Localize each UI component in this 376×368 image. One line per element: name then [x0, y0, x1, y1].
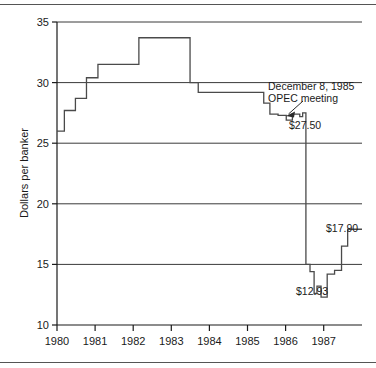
x-tick-label-1983: 1983: [159, 335, 183, 347]
x-tick-label-1985: 1985: [235, 335, 259, 347]
label-price-12-93: $12.93: [296, 285, 328, 297]
price-series-line: [57, 38, 362, 297]
y-tick-label-25: 25: [37, 137, 49, 149]
y-axis-ticks: [52, 22, 57, 325]
label-price-17-90: $17.90: [326, 222, 358, 234]
figure-container: 35 30 25 20 15 10 1980 1981 1982 1983 19…: [0, 0, 376, 368]
y-tick-label-15: 15: [37, 258, 49, 270]
y-axis-title: Dollars per banker: [18, 128, 30, 218]
y-tick-label-35: 35: [37, 16, 49, 28]
axes: [57, 22, 362, 325]
y-tick-label-30: 30: [37, 77, 49, 89]
x-axis-ticks: [57, 325, 324, 331]
annotation-opec-line2: OPEC meeting: [268, 92, 338, 104]
x-tick-label-1980: 1980: [45, 335, 69, 347]
y-tick-label-10: 10: [37, 319, 49, 331]
x-tick-label-1984: 1984: [197, 335, 221, 347]
x-axis-tick-labels: 1980 1981 1982 1983 1984 1985 1986 1987: [45, 335, 336, 347]
x-tick-label-1986: 1986: [273, 335, 297, 347]
x-tick-label-1982: 1982: [121, 335, 145, 347]
x-tick-label-1987: 1987: [311, 335, 335, 347]
y-tick-label-20: 20: [37, 198, 49, 210]
label-price-27-50: $27.50: [289, 119, 321, 131]
annotation-opec-line1: December 8, 1985: [268, 80, 355, 92]
oil-price-line-chart: 35 30 25 20 15 10 1980 1981 1982 1983 19…: [0, 0, 376, 368]
x-tick-label-1981: 1981: [83, 335, 107, 347]
gridlines: [57, 22, 362, 264]
y-axis-tick-labels: 35 30 25 20 15 10: [37, 16, 49, 331]
